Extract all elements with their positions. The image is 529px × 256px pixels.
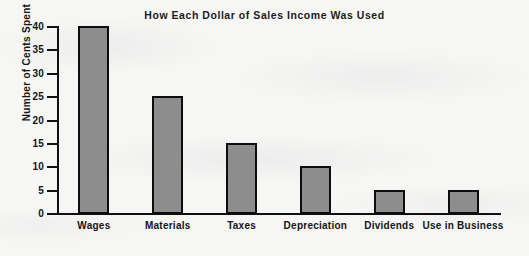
bar-dividends	[374, 190, 405, 214]
y-tick-label: 20	[3, 115, 44, 126]
bar-depreciation	[300, 166, 331, 214]
y-tick-label: 40	[3, 21, 44, 32]
y-tick-label: 15	[3, 138, 44, 149]
bar-wages	[78, 26, 109, 214]
y-tick-label: 30	[3, 68, 44, 79]
bar-chart-figure: How Each Dollar of Sales Income Was Used…	[0, 0, 529, 256]
y-tick-label: 10	[3, 161, 44, 172]
y-axis-title: Number of Cents Spent	[21, 0, 32, 133]
bar-taxes	[226, 143, 257, 214]
chart-title: How Each Dollar of Sales Income Was Used	[0, 9, 529, 21]
bar-materials	[152, 96, 183, 214]
plot-area	[57, 27, 500, 214]
y-tick-label: 0	[3, 208, 44, 219]
y-tick-label: 35	[3, 44, 44, 55]
bar-use-in-business	[448, 190, 479, 214]
y-tick-label: 25	[3, 91, 44, 102]
y-tick-label: 5	[3, 185, 44, 196]
x-tick-label-use-in-business: Use in Business	[403, 220, 523, 231]
